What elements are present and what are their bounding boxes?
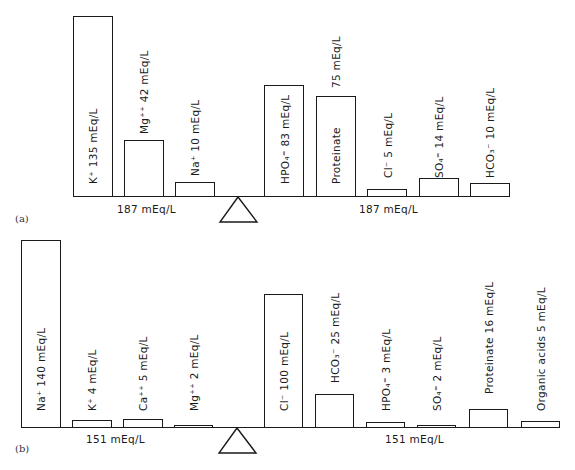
right-total-a: 187 mEq/L [359, 203, 418, 215]
bar-b-hco3 [315, 394, 354, 428]
left-total-a: 187 mEq/L [117, 203, 176, 215]
label-a-k: K⁺ 135 mEq/L [87, 108, 99, 184]
balance-triangle-icon [219, 196, 259, 224]
label-b-so4: SO₄⁼ 2 mEq/L [431, 336, 443, 411]
bar-a-so4 [419, 178, 459, 197]
label-a-na: Na⁺ 10 mEq/L [189, 100, 201, 176]
label-b-na: Na⁺ 140 mEq/L [35, 328, 47, 411]
bar-a-hco3 [470, 183, 510, 197]
balance-beam-a [73, 196, 510, 197]
label-b-proteinate: Proteinate 16 mEq/L [483, 282, 495, 394]
panel-label-b: (b) [15, 443, 29, 454]
balance-triangle-icon [218, 427, 258, 455]
label-a-so4: SO₄⁼ 14 mEq/L [433, 96, 445, 178]
label-a-mg: Mg⁺⁺ 42 mEq/L [138, 50, 150, 134]
label-b-hpo4: HPO₄⁼ 3 mEq/L [380, 329, 392, 411]
label-a-hco3: HCO₃⁻ 10 mEq/L [484, 88, 496, 178]
bar-b-proteinate [469, 409, 508, 428]
label-b-mg: Mg⁺⁺ 2 mEq/L [188, 334, 200, 411]
label-a-proteinate: Proteinate [330, 127, 342, 184]
label-b-cl: Cl⁻ 100 mEq/L [278, 332, 290, 411]
label-b-k: K⁺ 4 mEq/L [86, 349, 98, 411]
label-a-cl: Cl⁻ 5 mEq/L [382, 113, 394, 178]
balance-beam-b [21, 427, 560, 428]
bar-a-na [175, 182, 215, 197]
panel-a-intracellular-balance: K⁺ 135 mEq/L Mg⁺⁺ 42 mEq/L Na⁺ 10 mEq/L … [0, 0, 575, 235]
bar-a-mg [124, 140, 164, 197]
left-total-b: 151 mEq/L [86, 433, 145, 445]
right-total-b: 151 mEq/L [385, 433, 444, 445]
label-a-hpo4: HPO₄⁼ 83 mEq/L [279, 95, 291, 184]
panel-label-a: (a) [15, 213, 29, 224]
label-b-organic-acids: Organic acids 5 mEq/L [535, 287, 547, 411]
label-b-ca: Ca⁺⁺ 5 mEq/L [137, 336, 149, 411]
label-a-proteinate-value: 75 mEq/L [330, 36, 342, 88]
panel-b-extracellular-balance: Na⁺ 140 mEq/L K⁺ 4 mEq/L Ca⁺⁺ 5 mEq/L Mg… [0, 235, 575, 470]
label-b-hco3: HCO₃⁻ 25 mEq/L [329, 293, 341, 383]
